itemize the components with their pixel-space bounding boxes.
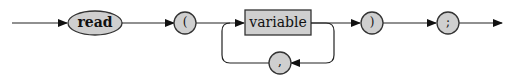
node-semicolon: ; (437, 12, 459, 34)
node-lparen: ( (174, 12, 196, 34)
node-read-label: read (77, 14, 112, 30)
node-variable: variable (245, 10, 311, 35)
node-lparen-label: ( (183, 15, 188, 29)
node-semicolon-label: ; (446, 15, 450, 29)
node-comma-label: , (278, 54, 282, 68)
node-rparen: ) (361, 12, 383, 34)
node-rparen-label: ) (370, 15, 375, 29)
syntax-diagram: read ( variable , ) ; (0, 0, 511, 78)
node-comma: , (269, 52, 291, 74)
node-read: read (68, 11, 122, 35)
node-variable-label: variable (248, 14, 307, 30)
